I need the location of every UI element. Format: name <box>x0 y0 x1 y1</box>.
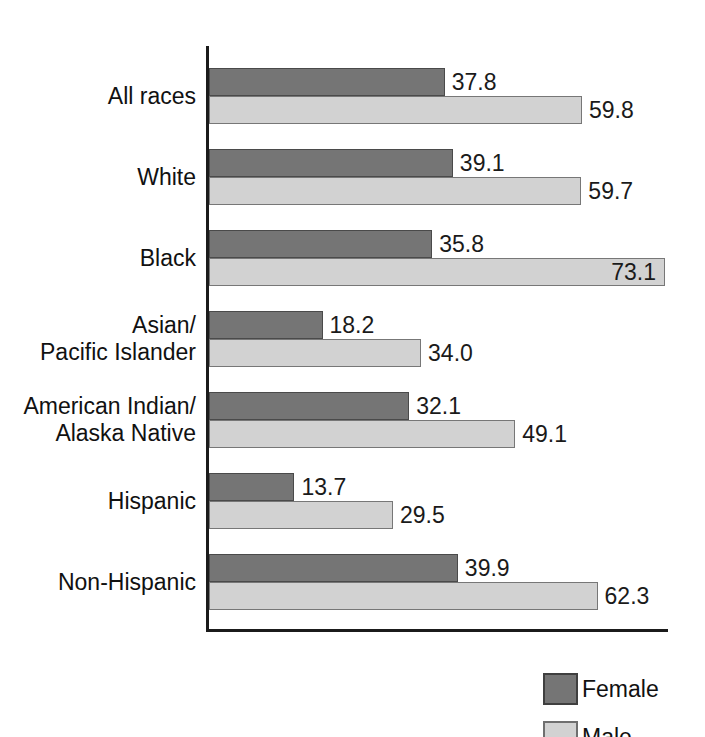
bar-male <box>209 339 421 367</box>
bar-value-label: 32.1 <box>416 395 461 418</box>
bar-row: 32.1 <box>209 392 668 420</box>
category-label: Asian/ Pacific Islander <box>6 312 196 366</box>
bar-male <box>209 258 665 286</box>
bar-female <box>209 68 445 96</box>
bar-value-label: 73.1 <box>611 261 656 284</box>
bar-group: 18.234.0 <box>209 311 668 367</box>
category-label: All races <box>6 83 196 110</box>
bar-group: 35.873.1 <box>209 230 668 286</box>
x-axis-line <box>206 629 668 632</box>
bar-female <box>209 473 294 501</box>
bar-female <box>209 149 453 177</box>
bar-group: 13.729.5 <box>209 473 668 529</box>
bar-row: 73.1 <box>209 258 668 286</box>
category-axis-labels: All racesWhiteBlackAsian/ Pacific Island… <box>0 46 196 632</box>
bar-female <box>209 392 409 420</box>
bar-row: 49.1 <box>209 420 668 448</box>
plot-area: 37.859.839.159.735.873.118.234.032.149.1… <box>206 46 668 632</box>
bar-row: 59.7 <box>209 177 668 205</box>
bar-value-label: 59.8 <box>589 99 634 122</box>
legend-item-female[interactable]: Female <box>543 665 705 713</box>
legend-label: Male <box>582 726 632 737</box>
bar-row: 13.7 <box>209 473 668 501</box>
legend-label: Female <box>582 678 659 701</box>
bar-row: 37.8 <box>209 68 668 96</box>
category-label: Non-Hispanic <box>6 569 196 596</box>
bar-value-label: 13.7 <box>301 476 346 499</box>
bar-female <box>209 311 323 339</box>
bar-female <box>209 230 432 258</box>
bar-value-label: 37.8 <box>452 71 497 94</box>
bar-chart-figure: All racesWhiteBlackAsian/ Pacific Island… <box>0 0 705 737</box>
bar-group: 39.159.7 <box>209 149 668 205</box>
bar-male <box>209 177 581 205</box>
bar-value-label: 35.8 <box>439 233 484 256</box>
category-label: American Indian/ Alaska Native <box>6 393 196 447</box>
bar-row: 39.9 <box>209 554 668 582</box>
bar-row: 62.3 <box>209 582 668 610</box>
bar-value-label: 29.5 <box>400 504 445 527</box>
bar-value-label: 18.2 <box>330 314 375 337</box>
bar-row: 39.1 <box>209 149 668 177</box>
bar-value-label: 39.9 <box>465 557 510 580</box>
bar-value-label: 62.3 <box>605 585 650 608</box>
bar-group: 32.149.1 <box>209 392 668 448</box>
legend-swatch-female <box>543 673 578 705</box>
category-label: White <box>6 164 196 191</box>
bar-value-label: 34.0 <box>428 342 473 365</box>
bar-group: 39.962.3 <box>209 554 668 610</box>
bar-group: 37.859.8 <box>209 68 668 124</box>
chart-legend: FemaleMale <box>543 665 705 737</box>
bar-male <box>209 582 598 610</box>
bar-male <box>209 501 393 529</box>
bar-male <box>209 420 515 448</box>
legend-swatch-male <box>543 721 578 737</box>
category-label: Black <box>6 245 196 272</box>
bar-value-label: 59.7 <box>588 180 633 203</box>
bar-value-label: 39.1 <box>460 152 505 175</box>
category-label: Hispanic <box>6 488 196 515</box>
legend-item-male[interactable]: Male <box>543 713 705 737</box>
bar-row: 59.8 <box>209 96 668 124</box>
bar-female <box>209 554 458 582</box>
bar-row: 34.0 <box>209 339 668 367</box>
bar-row: 29.5 <box>209 501 668 529</box>
bar-value-label: 49.1 <box>522 423 567 446</box>
bar-row: 18.2 <box>209 311 668 339</box>
bar-male <box>209 96 582 124</box>
bar-row: 35.8 <box>209 230 668 258</box>
